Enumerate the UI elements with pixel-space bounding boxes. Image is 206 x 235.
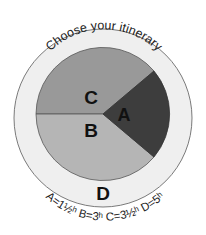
slice-label-c: C: [84, 87, 98, 108]
slice-label-a: A: [118, 105, 131, 125]
itinerary-diagram: C B A D Choose your itinerary A=1½ʰ B=3ʰ…: [0, 0, 206, 235]
legend-b: B=3ʰ: [77, 207, 103, 223]
slice-label-d: D: [96, 183, 110, 204]
slice-label-b: B: [84, 120, 98, 141]
